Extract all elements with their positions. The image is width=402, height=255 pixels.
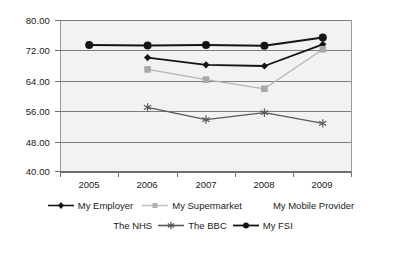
legend-row-1: My Employer My Supermarket My Mobile Pro… — [0, 198, 402, 213]
legend-label-my-supermarket: My Supermarket — [172, 201, 242, 211]
y-tick-mark-64 — [55, 81, 61, 82]
line-chart: 80.00 72.00 64.00 56.00 48.00 40.00 2005… — [0, 0, 402, 255]
gridline-64 — [61, 81, 351, 82]
x-tick-mark-4 — [293, 172, 294, 177]
gridline-48 — [61, 142, 351, 143]
x-tick-label-2009: 2009 — [311, 179, 332, 190]
y-tick-label-56: 56.00 — [26, 106, 50, 117]
legend-item-the-bbc[interactable]: The BBC — [158, 221, 227, 231]
y-tick-mark-56 — [55, 111, 61, 112]
x-tick-mark-1 — [118, 172, 119, 177]
x-tick-mark-5 — [351, 172, 352, 177]
legend-label-my-mobile-provider: My Mobile Provider — [273, 201, 354, 211]
chart-legend: My Employer My Supermarket My Mobile Pro… — [0, 198, 402, 233]
x-tick-label-2008: 2008 — [253, 179, 274, 190]
x-tick-label-2006: 2006 — [136, 179, 157, 190]
y-axis: 80.00 72.00 64.00 56.00 48.00 40.00 — [0, 0, 60, 180]
legend-row-2: The NHS The BBC My FSI — [0, 218, 402, 233]
y-tick-label-72: 72.00 — [26, 45, 50, 56]
legend-label-the-nhs: The NHS — [113, 221, 152, 231]
gridline-72 — [61, 50, 351, 51]
gridline-56 — [61, 111, 351, 112]
y-tick-mark-48 — [55, 142, 61, 143]
legend-label-the-bbc: The BBC — [188, 221, 227, 231]
x-tick-label-2005: 2005 — [78, 179, 99, 190]
y-tick-label-80: 80.00 — [26, 15, 50, 26]
x-tick-mark-3 — [235, 172, 236, 177]
x-tick-mark-0 — [60, 172, 61, 177]
square-line-key-icon — [142, 201, 168, 210]
legend-label-my-employer: My Employer — [78, 201, 133, 211]
legend-item-my-fsi[interactable]: My FSI — [233, 221, 293, 231]
legend-item-my-supermarket[interactable]: My Supermarket — [142, 201, 242, 211]
legend-item-the-nhs[interactable]: The NHS — [109, 221, 152, 231]
y-tick-label-48: 48.00 — [26, 137, 50, 148]
legend-label-my-fsi: My FSI — [263, 221, 293, 231]
diamond-line-key-icon — [48, 201, 74, 210]
x-axis-line — [60, 172, 352, 173]
gridline-80 — [61, 20, 351, 21]
circle-line-key-icon — [233, 221, 259, 230]
y-tick-label-40: 40.00 — [26, 166, 50, 177]
legend-item-my-employer[interactable]: My Employer — [48, 201, 133, 211]
y-tick-label-64: 64.00 — [26, 76, 50, 87]
plot-area — [60, 20, 352, 172]
x-tick-mark-2 — [177, 172, 178, 177]
y-tick-mark-80 — [55, 20, 61, 21]
y-tick-mark-72 — [55, 50, 61, 51]
asterisk-line-key-icon — [158, 221, 184, 230]
x-tick-label-2007: 2007 — [195, 179, 216, 190]
legend-item-my-mobile-provider[interactable]: My Mobile Provider — [269, 201, 354, 211]
